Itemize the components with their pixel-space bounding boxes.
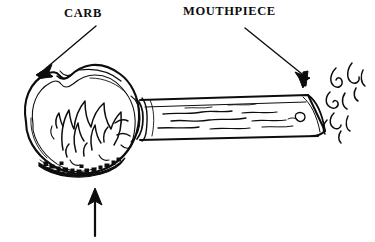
bowl-flames: [56, 101, 130, 157]
pipe-illustration: [0, 0, 375, 242]
bottom-arrow: [88, 188, 102, 236]
carb-arrow: [36, 26, 96, 79]
pipe-diagram: CARB MOUTHPIECE: [0, 0, 375, 242]
smoke-wisps: [323, 63, 365, 143]
label-mouthpiece: MOUTHPIECE: [183, 4, 276, 18]
pipe-stem: [140, 95, 325, 141]
mouthpiece-arrow: [245, 28, 310, 88]
label-carb: CARB: [64, 6, 102, 20]
